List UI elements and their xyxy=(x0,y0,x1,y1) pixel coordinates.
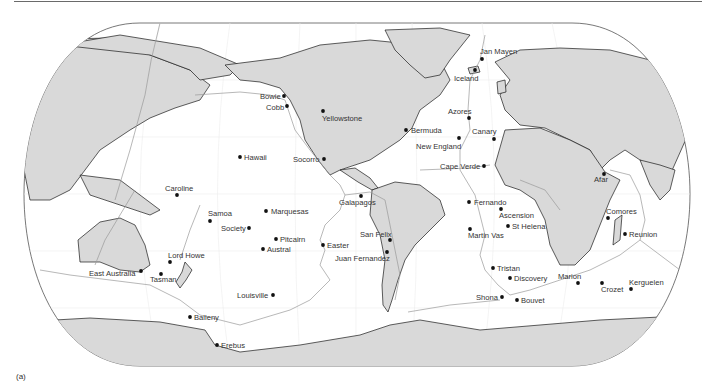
hotspot-dot-icon xyxy=(467,116,471,120)
hotspot-dot-icon xyxy=(282,94,286,98)
hotspot-label: St Helena xyxy=(512,222,546,231)
hotspot-label: Tristan xyxy=(497,264,520,273)
hotspot-label: Canary xyxy=(472,127,497,136)
hotspot-dot-icon xyxy=(482,164,486,168)
hotspot-label: Kerguelen xyxy=(629,278,664,287)
hotspot-dot-icon xyxy=(321,243,325,247)
hotspot-label: Bowie xyxy=(260,92,281,101)
hotspot-dot-icon xyxy=(467,200,471,204)
hotspot-label: Easter xyxy=(327,241,349,250)
hotspot-dot-icon xyxy=(606,216,610,220)
hotspot-label: Austral xyxy=(267,245,291,254)
hotspot-dot-icon xyxy=(168,260,172,264)
hotspot-label: Marquesas xyxy=(271,207,309,216)
hotspot-dot-icon xyxy=(492,137,496,141)
hotspot-dot-icon xyxy=(480,57,484,61)
hotspot-dot-icon xyxy=(285,104,289,108)
hotspot-label: Galapagos xyxy=(339,198,376,207)
hotspot-dot-icon xyxy=(322,157,326,161)
hotspot-dot-icon xyxy=(274,237,278,241)
hotspot-label: Society xyxy=(221,224,246,233)
hotspot-marker: St Helena xyxy=(506,222,546,231)
hotspot-label: Comores xyxy=(606,207,637,216)
hotspot-dot-icon xyxy=(208,219,212,223)
hotspot-label: Balleny xyxy=(194,313,219,322)
hotspot-label: Cape Verde xyxy=(440,162,480,171)
hotspot-dot-icon xyxy=(629,287,633,291)
hotspot-label: Bouvet xyxy=(521,296,546,305)
hotspot-dot-icon xyxy=(404,128,408,132)
hotspot-dot-icon xyxy=(261,247,265,251)
hotspot-label: Yellowstone xyxy=(322,114,362,123)
hotspot-dot-icon xyxy=(576,281,580,285)
hotspot-label: Tasman xyxy=(150,275,177,284)
hotspot-label: Cobb xyxy=(266,103,284,112)
hotspot-label: Reunion xyxy=(629,230,657,239)
hotspot-dot-icon xyxy=(473,68,477,72)
hotspot-dot-icon xyxy=(491,266,495,270)
hotspot-label: Crozet xyxy=(601,285,624,294)
hotspot-label: Socorro xyxy=(293,155,320,164)
hotspot-label: Azores xyxy=(448,107,472,116)
hotspot-label: Discovery xyxy=(514,274,548,283)
hotspot-dot-icon xyxy=(264,209,268,213)
hotspot-dot-icon xyxy=(508,276,512,280)
hotspot-label: Samoa xyxy=(208,209,233,218)
landmass-british-isles xyxy=(497,80,506,94)
hotspot-label: Iceland xyxy=(454,74,479,83)
hotspot-marker: Marquesas xyxy=(264,207,309,216)
hotspot-label: East Australia xyxy=(89,269,136,278)
hotspot-dot-icon xyxy=(139,269,143,273)
hotspot-dot-icon xyxy=(238,155,242,159)
hotspot-label: Juan Fernandez xyxy=(335,254,390,263)
hotspot-dot-icon xyxy=(457,136,461,140)
hotspot-label: Shona xyxy=(476,293,499,302)
hotspot-marker: East Australia xyxy=(89,269,143,278)
figure-caption: (a) xyxy=(16,372,26,381)
hotspot-label: Louisville xyxy=(237,291,268,300)
hotspot-dot-icon xyxy=(623,232,627,236)
hotspot-label: Fernando xyxy=(474,198,507,207)
hotspot-label: Hawaii xyxy=(244,153,267,162)
hotspot-label: Jan Mayen xyxy=(480,47,517,56)
hotspot-dot-icon xyxy=(321,109,325,113)
hotspot-label: Afar xyxy=(594,175,608,184)
hotspot-dot-icon xyxy=(247,226,251,230)
hotspot-label: Pitcairn xyxy=(280,235,305,244)
hotspot-dot-icon xyxy=(271,293,275,297)
hotspot-label: Martin Vas xyxy=(468,231,504,240)
hotspot-dot-icon xyxy=(515,298,519,302)
hotspot-label: Marion xyxy=(558,272,581,281)
hotspot-label: San Felix xyxy=(360,230,392,239)
hotspot-label: Erebus xyxy=(221,341,245,350)
hotspot-dot-icon xyxy=(188,315,192,319)
hotspot-label: Lord Howe xyxy=(168,251,205,260)
hotspot-marker: Cape Verde xyxy=(440,162,486,171)
hotspot-dot-icon xyxy=(506,224,510,228)
hotspot-dot-icon xyxy=(215,343,219,347)
hotspot-label: Bermuda xyxy=(411,126,443,135)
hotspot-marker: Reunion xyxy=(623,230,657,239)
hotspot-label: New England xyxy=(416,142,461,151)
hotspot-dot-icon xyxy=(175,193,179,197)
hotspot-label: Ascension xyxy=(499,211,534,220)
hotspot-label: Caroline xyxy=(165,184,193,193)
hotspot-dot-icon xyxy=(500,295,504,299)
world-map: Jan MayenIcelandBowieCobbYellowstoneAzor… xyxy=(0,0,713,389)
hotspot-marker: Discovery xyxy=(508,274,547,283)
